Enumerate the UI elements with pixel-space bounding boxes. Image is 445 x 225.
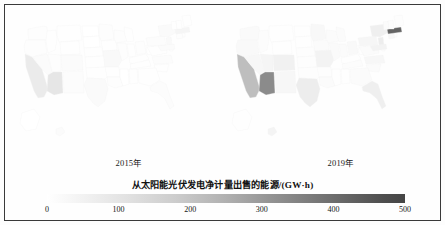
state-ar bbox=[317, 67, 332, 77]
colorbar-tick-200: 200 bbox=[184, 205, 196, 214]
colorbar-tick-300: 300 bbox=[256, 205, 268, 214]
state-or bbox=[24, 40, 47, 57]
state-mo bbox=[103, 50, 122, 67]
state-hi bbox=[56, 127, 65, 136]
state-ak bbox=[20, 109, 40, 131]
colorbar-tick-100: 100 bbox=[113, 205, 125, 214]
state-nm bbox=[275, 71, 296, 93]
state-fl bbox=[150, 81, 174, 109]
state-me bbox=[394, 15, 404, 27]
state-wa bbox=[28, 26, 48, 40]
state-tx bbox=[296, 78, 320, 107]
state-al bbox=[341, 69, 350, 84]
colorbar-gradient bbox=[47, 194, 405, 203]
state-ia bbox=[313, 40, 329, 51]
state-oh bbox=[135, 41, 146, 55]
state-mt bbox=[57, 25, 82, 42]
state-in bbox=[127, 44, 136, 57]
state-nc bbox=[364, 55, 385, 64]
state-ar bbox=[105, 67, 120, 77]
state-co bbox=[273, 55, 295, 71]
state-tx bbox=[84, 78, 108, 107]
state-co bbox=[61, 55, 83, 71]
state-mo bbox=[315, 50, 334, 67]
state-wy bbox=[60, 41, 80, 55]
state-nh bbox=[388, 20, 394, 29]
colorbar-tick-0: 0 bbox=[45, 205, 49, 214]
choropleth-map-2019 bbox=[222, 13, 440, 153]
state-me bbox=[182, 15, 192, 27]
colorbar-tick-labels: 0100200300400500 bbox=[47, 205, 405, 219]
state-ks bbox=[85, 56, 105, 68]
colorbar-tick-500: 500 bbox=[399, 205, 411, 214]
state-nh bbox=[176, 20, 182, 29]
state-pa bbox=[358, 36, 378, 46]
us-map-svg-2015 bbox=[10, 13, 228, 153]
state-mt bbox=[269, 25, 294, 42]
state-ks bbox=[297, 56, 317, 68]
state-id bbox=[46, 30, 57, 53]
state-ak bbox=[232, 109, 252, 131]
state-hi bbox=[268, 127, 277, 136]
year-label-2019: 2019年 bbox=[281, 156, 401, 168]
state-ia bbox=[101, 40, 117, 51]
state-nc bbox=[152, 55, 173, 64]
colorbar-title: 从太阳能光伏发电净计量出售的能源/(GW·h) bbox=[5, 177, 440, 191]
colorbar-tick-400: 400 bbox=[327, 205, 339, 214]
state-wa bbox=[240, 26, 260, 40]
state-nm bbox=[63, 71, 84, 93]
state-in bbox=[339, 44, 348, 57]
colorbar bbox=[47, 194, 405, 203]
state-wy bbox=[272, 41, 292, 55]
state-oh bbox=[347, 41, 358, 55]
state-az bbox=[259, 72, 275, 95]
state-al bbox=[129, 69, 138, 84]
states-group-2015 bbox=[20, 15, 192, 136]
state-nj bbox=[166, 37, 172, 45]
figure-frame: 2015年 2019年 从太阳能光伏发电净计量出售的能源/(GW·h) 0100… bbox=[4, 4, 441, 221]
state-sd bbox=[295, 36, 312, 48]
figure-container: 2015年 2019年 从太阳能光伏发电净计量出售的能源/(GW·h) 0100… bbox=[0, 0, 445, 225]
state-mn bbox=[99, 24, 114, 41]
state-pa bbox=[146, 36, 166, 46]
state-or bbox=[236, 40, 259, 57]
us-map-svg-2019 bbox=[222, 13, 440, 153]
choropleth-map-2015 bbox=[10, 13, 228, 153]
state-nj bbox=[378, 37, 384, 45]
states-group-2019 bbox=[232, 15, 404, 136]
state-ne bbox=[296, 47, 315, 57]
state-nd bbox=[82, 26, 99, 37]
state-mn bbox=[311, 24, 326, 41]
state-sd bbox=[83, 36, 100, 48]
state-az bbox=[47, 72, 63, 95]
year-label-2015: 2015年 bbox=[69, 156, 189, 168]
state-fl bbox=[362, 81, 386, 109]
state-nd bbox=[294, 26, 311, 37]
state-ne bbox=[84, 47, 103, 57]
state-id bbox=[258, 30, 269, 53]
